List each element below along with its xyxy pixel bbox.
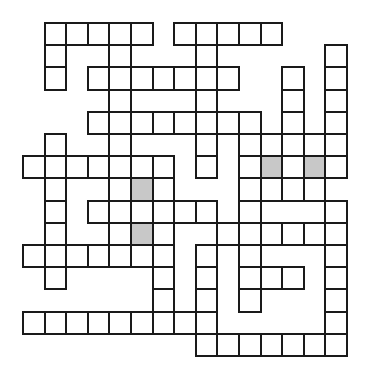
crossword-cell[interactable] (281, 266, 305, 290)
crossword-cell[interactable] (216, 66, 240, 90)
crossword-cell[interactable] (260, 222, 284, 246)
crossword-cell[interactable] (238, 222, 262, 246)
crossword-cell[interactable] (260, 22, 284, 46)
crossword-cell[interactable] (281, 155, 305, 179)
crossword-cell[interactable] (44, 266, 68, 290)
crossword-cell[interactable] (260, 333, 284, 357)
crossword-cell[interactable] (324, 244, 348, 268)
crossword-cell[interactable] (130, 155, 154, 179)
crossword-cell[interactable] (195, 244, 219, 268)
crossword-cell[interactable] (44, 22, 68, 46)
crossword-cell[interactable] (44, 244, 68, 268)
crossword-cell-shaded[interactable] (260, 155, 284, 179)
crossword-cell[interactable] (22, 244, 46, 268)
crossword-cell[interactable] (281, 89, 305, 113)
crossword-cell[interactable] (324, 311, 348, 335)
crossword-cell[interactable] (238, 177, 262, 201)
crossword-cell[interactable] (152, 155, 176, 179)
crossword-cell[interactable] (44, 155, 68, 179)
crossword-cell[interactable] (108, 244, 132, 268)
crossword-cell[interactable] (87, 200, 111, 224)
crossword-cell[interactable] (195, 266, 219, 290)
crossword-cell[interactable] (108, 177, 132, 201)
crossword-cell[interactable] (152, 66, 176, 90)
crossword-cell[interactable] (108, 222, 132, 246)
crossword-cell[interactable] (130, 200, 154, 224)
crossword-cell[interactable] (195, 311, 219, 335)
crossword-cell[interactable] (195, 44, 219, 68)
crossword-cell[interactable] (238, 200, 262, 224)
crossword-cell[interactable] (195, 155, 219, 179)
crossword-cell[interactable] (173, 22, 197, 46)
crossword-cell[interactable] (238, 111, 262, 135)
crossword-cell[interactable] (324, 288, 348, 312)
crossword-cell[interactable] (303, 222, 327, 246)
crossword-cell[interactable] (281, 66, 305, 90)
crossword-cell[interactable] (303, 177, 327, 201)
crossword-cell[interactable] (65, 244, 89, 268)
crossword-cell[interactable] (152, 288, 176, 312)
crossword-cell[interactable] (324, 333, 348, 357)
crossword-cell[interactable] (108, 66, 132, 90)
crossword-cell[interactable] (152, 177, 176, 201)
crossword-cell[interactable] (65, 311, 89, 335)
crossword-cell[interactable] (238, 266, 262, 290)
crossword-cell[interactable] (87, 155, 111, 179)
crossword-cell[interactable] (152, 311, 176, 335)
crossword-cell[interactable] (303, 133, 327, 157)
crossword-cell[interactable] (195, 66, 219, 90)
crossword-cell[interactable] (324, 200, 348, 224)
crossword-cell[interactable] (65, 22, 89, 46)
crossword-cell[interactable] (324, 222, 348, 246)
crossword-cell[interactable] (260, 177, 284, 201)
crossword-cell[interactable] (281, 133, 305, 157)
crossword-cell[interactable] (108, 155, 132, 179)
crossword-cell[interactable] (324, 155, 348, 179)
crossword-cell[interactable] (130, 244, 154, 268)
crossword-cell[interactable] (108, 89, 132, 113)
crossword-cell-shaded[interactable] (130, 222, 154, 246)
crossword-cell[interactable] (173, 66, 197, 90)
crossword-cell[interactable] (108, 22, 132, 46)
crossword-cell[interactable] (281, 177, 305, 201)
crossword-cell[interactable] (108, 44, 132, 68)
crossword-cell[interactable] (65, 155, 89, 179)
crossword-cell-shaded[interactable] (303, 155, 327, 179)
crossword-cell[interactable] (216, 222, 240, 246)
crossword-cell[interactable] (324, 44, 348, 68)
crossword-cell[interactable] (44, 133, 68, 157)
crossword-cell[interactable] (216, 22, 240, 46)
crossword-cell[interactable] (108, 133, 132, 157)
crossword-cell[interactable] (238, 22, 262, 46)
crossword-cell[interactable] (238, 333, 262, 357)
crossword-cell[interactable] (173, 200, 197, 224)
crossword-cell[interactable] (87, 244, 111, 268)
crossword-cell[interactable] (324, 266, 348, 290)
crossword-cell[interactable] (173, 311, 197, 335)
crossword-cell[interactable] (324, 89, 348, 113)
crossword-cell[interactable] (260, 133, 284, 157)
crossword-cell[interactable] (22, 311, 46, 335)
crossword-cell[interactable] (195, 133, 219, 157)
crossword-cell[interactable] (152, 244, 176, 268)
crossword-cell[interactable] (44, 311, 68, 335)
crossword-cell[interactable] (152, 222, 176, 246)
crossword-cell[interactable] (238, 133, 262, 157)
crossword-cell[interactable] (44, 177, 68, 201)
crossword-cell[interactable] (216, 333, 240, 357)
crossword-cell[interactable] (281, 222, 305, 246)
crossword-cell[interactable] (195, 22, 219, 46)
crossword-cell[interactable] (130, 66, 154, 90)
crossword-cell[interactable] (195, 333, 219, 357)
crossword-cell[interactable] (324, 111, 348, 135)
crossword-cell[interactable] (324, 133, 348, 157)
crossword-cell[interactable] (281, 111, 305, 135)
crossword-cell-shaded[interactable] (130, 177, 154, 201)
crossword-cell[interactable] (195, 200, 219, 224)
crossword-cell[interactable] (152, 200, 176, 224)
crossword-cell[interactable] (281, 333, 305, 357)
crossword-cell[interactable] (173, 111, 197, 135)
crossword-cell[interactable] (87, 22, 111, 46)
crossword-cell[interactable] (195, 111, 219, 135)
crossword-cell[interactable] (44, 200, 68, 224)
